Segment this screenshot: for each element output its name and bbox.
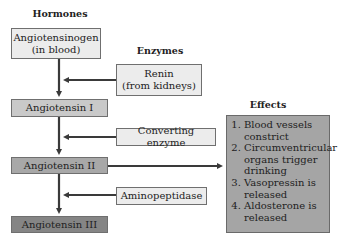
effect-item: Blood vessels constrict <box>244 119 325 142</box>
effects-heading: Effects <box>240 99 296 110</box>
converting-enzyme-box: Converting enzyme <box>116 128 216 146</box>
hormones-heading: Hormones <box>25 8 95 19</box>
angiotensin-i-label: Angiotensin I <box>26 102 94 114</box>
converting-enzyme-label: Converting enzyme <box>117 125 215 149</box>
angiotensinogen-sublabel: (in blood) <box>32 44 81 56</box>
angiotensinogen-label: Angiotensinogen <box>13 32 98 44</box>
angiotensin-iii-box: Angiotensin III <box>11 216 108 233</box>
effect-item: Vasopressin is released <box>244 177 325 200</box>
renin-sublabel: (from kidneys) <box>122 80 196 92</box>
angiotensinogen-box: Angiotensinogen (in blood) <box>11 28 101 59</box>
effects-list: Blood vessels constrict Circumventricula… <box>232 119 325 223</box>
enzymes-heading: Enzymes <box>130 45 190 56</box>
angiotensin-i-box: Angiotensin I <box>11 99 108 117</box>
effect-item: Circumventricular organs trigger drinkin… <box>244 142 325 177</box>
renin-box: Renin (from kidneys) <box>116 64 202 96</box>
effect-item: Aldosterone is released <box>244 200 325 223</box>
aminopeptidase-box: Aminopeptidase <box>116 187 207 205</box>
angiotensin-iii-label: Angiotensin III <box>22 219 97 231</box>
renin-label: Renin <box>144 68 174 80</box>
angiotensin-ii-box: Angiotensin II <box>11 157 108 174</box>
angiotensin-ii-label: Angiotensin II <box>24 160 96 172</box>
aminopeptidase-label: Aminopeptidase <box>121 190 203 202</box>
effects-box: Blood vessels constrict Circumventricula… <box>226 115 330 233</box>
